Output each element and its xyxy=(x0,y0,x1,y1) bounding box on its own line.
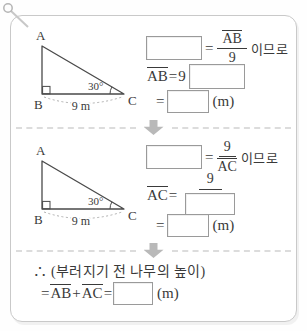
conclusion-text: ∴ (부러지기 전 나무의 높이) xyxy=(33,260,205,280)
base-label: 9 m xyxy=(72,214,91,228)
unit-label: (m) xyxy=(212,93,234,110)
answer-blank[interactable] xyxy=(167,90,209,113)
vertex-label-c: C xyxy=(128,208,137,223)
because-text: 이므로 xyxy=(251,39,289,58)
vertex-label-a: A xyxy=(36,28,46,43)
fraction-numerator: 9 xyxy=(199,171,222,189)
step2-equation-1: = 9 AC 이므로 xyxy=(146,139,278,175)
vertex-label-b: B xyxy=(34,212,43,227)
fraction-numerator: 9 xyxy=(219,139,236,157)
vertex-label-a: A xyxy=(36,143,46,158)
angle-label: 30° xyxy=(88,195,103,207)
segment-ab: AB xyxy=(222,30,241,47)
answer-blank[interactable] xyxy=(146,145,202,169)
equals-sign: = xyxy=(205,40,213,57)
triangle-figure-1: A B C 30° 9 m xyxy=(18,26,148,118)
right-angle-mark xyxy=(43,201,50,208)
because-text: 이므로 xyxy=(241,148,279,167)
triangle-figure-2: A B C 30° 9 m xyxy=(18,141,148,233)
equals-sign: = xyxy=(156,93,164,110)
unit-label: (m) xyxy=(212,217,234,234)
equals-sign: = xyxy=(205,149,213,166)
equals-sign: = xyxy=(169,68,177,85)
worksheet-page: A B C 30° 9 m = AB 9 이므로 AB = 9 = (m) A xyxy=(0,0,307,331)
fraction: 9 AC xyxy=(217,139,236,175)
pin-icon xyxy=(1,1,35,35)
fraction: AB 9 xyxy=(217,30,246,66)
segment-ac: AC xyxy=(82,284,103,302)
answer-blank[interactable] xyxy=(113,282,153,305)
segment-ab: AB xyxy=(147,67,168,85)
equals-sign: = xyxy=(104,285,112,302)
unit-label: (m) xyxy=(157,285,179,302)
dashed-line xyxy=(16,250,136,252)
final-equation: = AB + AC = (m) xyxy=(41,280,179,306)
equals-sign: = xyxy=(41,285,49,302)
step1-equation-2: AB = 9 xyxy=(147,62,245,90)
angle-arc xyxy=(110,202,112,209)
dashed-line xyxy=(16,127,136,129)
down-arrow-icon xyxy=(144,243,164,258)
segment-ab: AB xyxy=(50,284,71,302)
fraction-numerator: AB xyxy=(217,30,246,49)
answer-blank[interactable] xyxy=(189,64,245,89)
answer-blank[interactable] xyxy=(167,214,209,237)
base-label: 9 m xyxy=(72,99,91,113)
step1-equation-1: = AB 9 이므로 xyxy=(146,30,288,66)
down-arrow-icon xyxy=(144,120,164,135)
dashed-line xyxy=(172,127,292,129)
step2-equation-3: = (m) xyxy=(156,212,234,238)
step-divider-2 xyxy=(16,243,291,258)
angle-arc xyxy=(110,87,112,94)
equals-sign: = xyxy=(156,217,164,234)
dashed-line xyxy=(172,250,292,252)
coefficient: 9 xyxy=(178,68,186,85)
vertex-label-c: C xyxy=(128,93,137,108)
angle-label: 30° xyxy=(88,80,103,92)
step1-equation-3: = (m) xyxy=(156,88,234,114)
vertex-label-b: B xyxy=(34,97,43,112)
right-angle-mark xyxy=(43,86,50,93)
segment-ac: AC xyxy=(147,186,168,204)
equals-sign: = xyxy=(169,187,177,204)
step-divider-1 xyxy=(16,120,291,135)
plus-sign: + xyxy=(72,285,80,302)
answer-blank[interactable] xyxy=(146,36,202,60)
